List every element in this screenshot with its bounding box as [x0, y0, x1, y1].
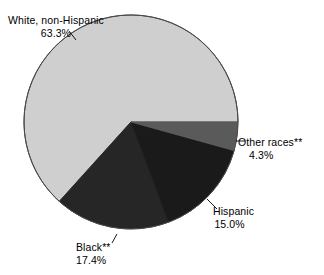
slice-label-white-non-hispanic: White, non-Hispanic 63.3%: [8, 14, 104, 39]
slice-label-white-non-hispanic-name: White, non-Hispanic: [8, 14, 104, 26]
slice-label-white-non-hispanic-percent: 63.3%: [8, 27, 104, 40]
slice-label-hispanic-name: Hispanic: [213, 205, 254, 217]
leader-line-black: [112, 234, 117, 243]
slice-label-hispanic: Hispanic 15.0%: [213, 205, 254, 230]
slice-label-other-races-percent: 4.3%: [238, 149, 302, 162]
slice-label-other-races-name: Other races**: [238, 136, 302, 148]
slice-label-black-percent: 17.4%: [76, 254, 112, 267]
slice-label-black-name: Black**: [76, 241, 111, 253]
pie-chart: White, non-Hispanic 63.3% Other races** …: [0, 0, 324, 275]
slice-label-hispanic-percent: 15.0%: [213, 218, 254, 231]
slice-label-other-races: Other races** 4.3%: [238, 136, 302, 161]
slice-label-black: Black** 17.4%: [76, 241, 112, 266]
